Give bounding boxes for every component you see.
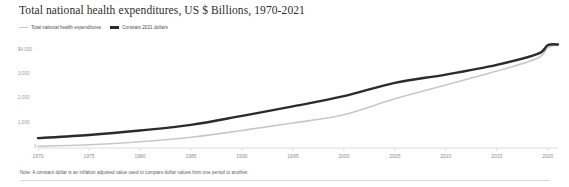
chart-figure: Total national health expenditures, US $… xyxy=(0,0,569,187)
x-axis-tick-label: 1970 xyxy=(32,153,43,159)
x-axis-tick-label: 2015 xyxy=(491,153,502,159)
y-axis-tick-label: 1,000 xyxy=(18,120,30,125)
y-axis-tick-label: 0 xyxy=(34,144,37,149)
series-line[interactable] xyxy=(38,44,558,138)
x-axis-tick-label: 1980 xyxy=(134,153,145,159)
x-axis-tick-label: 2010 xyxy=(440,153,451,159)
footnote-divider xyxy=(20,180,550,181)
x-axis-tick-label: 2005 xyxy=(389,153,400,159)
x-axis-tick-label: 1995 xyxy=(287,153,298,159)
plot-area: $4,0003,0002,0001,0000197019751980198519… xyxy=(0,0,569,187)
x-axis-tick-label: 1985 xyxy=(185,153,196,159)
y-axis-tick-label: 3,000 xyxy=(18,71,30,76)
x-axis-tick-label: 1975 xyxy=(83,153,94,159)
x-axis-tick-label: 2000 xyxy=(338,153,349,159)
y-axis-tick-label: 2,000 xyxy=(18,95,30,100)
y-axis-tick-label: $4,000 xyxy=(18,47,32,52)
series-line[interactable] xyxy=(38,45,558,147)
x-axis-tick-label: 1990 xyxy=(236,153,247,159)
x-axis-tick-label: 2020 xyxy=(542,153,553,159)
chart-footnote: Note: A constant dollar is an inflation … xyxy=(20,170,248,175)
